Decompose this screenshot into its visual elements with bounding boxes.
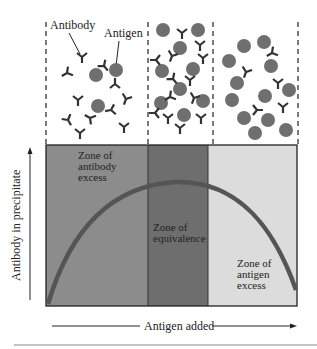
antigen-particle (177, 108, 191, 122)
antibody-particle (177, 29, 187, 39)
antigen-particle (173, 82, 187, 96)
antibody-particle (253, 105, 263, 115)
antibody-particle (62, 114, 76, 128)
antibody-label: Antibody (50, 18, 95, 32)
antigen-particle (257, 35, 271, 49)
antigen-particle (237, 111, 251, 125)
antibody-particle (150, 55, 160, 65)
antigen-pointer (116, 41, 119, 66)
antigen-particle (155, 64, 169, 78)
antibody-particle (196, 114, 206, 124)
antibody-particle (264, 47, 278, 61)
antibody-particle (82, 111, 96, 125)
antigen-particle (230, 76, 244, 90)
antigen-particle (186, 62, 200, 76)
antigen-particle (258, 89, 272, 103)
antigen-label: Antigen (104, 26, 143, 40)
antibody-particle (185, 76, 195, 86)
antibody-particle (149, 108, 159, 118)
antigen-particle (109, 63, 123, 77)
antigen-particle (237, 39, 251, 53)
antigen-particle (173, 41, 187, 55)
antigen-particle (248, 126, 262, 140)
antigen-particle (261, 113, 275, 127)
antigen-particle (282, 83, 296, 97)
antibody-particle (59, 67, 73, 81)
antibody-particle (273, 79, 283, 89)
antibody-particle (198, 54, 208, 64)
antigen-particle (91, 99, 105, 113)
antigen-particle (225, 93, 239, 107)
antibody-particle (77, 53, 87, 63)
antigen-particle (222, 54, 236, 68)
x-axis-arrowhead-icon (290, 324, 297, 329)
antibody-particle (73, 96, 83, 106)
antigen-particle (264, 59, 278, 73)
y-axis-arrowhead-icon (28, 147, 33, 154)
antibody-particle (119, 94, 132, 107)
antibody-particle (110, 78, 120, 88)
antibody-particle (175, 124, 185, 134)
x-axis-label: Antigen added (144, 319, 214, 333)
antigen-particle (156, 23, 170, 37)
antigen-particle (279, 123, 293, 137)
precipitin-diagram: Antibody Antigen Zone of antibody excess… (0, 0, 317, 349)
antibody-particle (75, 129, 85, 139)
y-axis-label: Antibody in precipitate (9, 170, 23, 281)
antibody-particle (163, 114, 173, 124)
antibody-particle (104, 104, 116, 116)
antigen-particle (191, 23, 205, 37)
antibody-particle (119, 123, 129, 133)
particle-illustrations (59, 23, 296, 140)
antigen-particle (89, 68, 103, 82)
antibody-particle (278, 103, 288, 113)
antibody-particle (195, 41, 205, 51)
antibody-pointer (69, 33, 80, 54)
